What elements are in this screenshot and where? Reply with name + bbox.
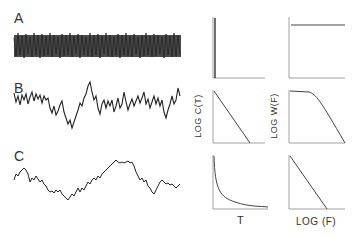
spectrum-y-label: LOG W(F) <box>269 93 279 139</box>
spectrum-plot-b <box>289 90 345 143</box>
spectrum-plot-a <box>289 17 345 78</box>
trace-c <box>14 160 180 200</box>
figure-canvas <box>0 0 358 238</box>
corr-x-label: T <box>237 214 244 226</box>
corr-plot-c <box>213 155 268 209</box>
trace-a <box>14 33 181 58</box>
spectrum-plot-c <box>289 155 345 209</box>
corr-plot-a <box>213 17 265 78</box>
spectrum-x-label: LOG (F) <box>296 216 336 227</box>
corr-y-label: LOG C(T) <box>193 94 203 138</box>
corr-plot-b <box>213 90 265 143</box>
trace-b <box>14 82 180 128</box>
